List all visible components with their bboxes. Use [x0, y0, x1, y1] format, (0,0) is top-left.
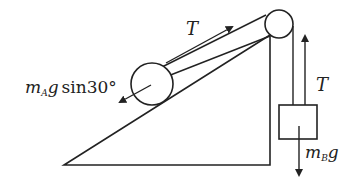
label-sin: sin30°	[62, 77, 117, 97]
tension-incline-arrow	[166, 27, 232, 63]
weight-b-label: mBg	[305, 142, 339, 163]
tension-incline-label: T	[186, 18, 200, 39]
label-g-b: g	[328, 142, 339, 162]
tension-vertical-label: T	[316, 74, 330, 95]
weight-component-label: mAgsin30°	[25, 77, 117, 98]
incline-wedge	[64, 35, 270, 165]
label-g: g	[48, 77, 59, 97]
physics-diagram: T T mAgsin30° mBg	[0, 0, 362, 189]
label-m-b: m	[305, 142, 321, 162]
mass-a-ball	[131, 63, 173, 105]
rope-incline-upper	[162, 15, 266, 67]
pulley	[265, 10, 293, 38]
mass-b-block	[279, 105, 317, 139]
label-m: m	[25, 77, 41, 97]
